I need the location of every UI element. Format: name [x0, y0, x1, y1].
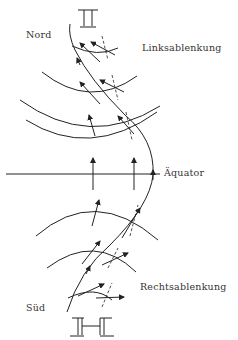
latitude-arc-1 — [72, 46, 118, 53]
deflection-arrow — [80, 82, 100, 104]
left-deflection-label: Linksablenkung — [142, 42, 222, 53]
latitude-arc-2 — [42, 72, 137, 92]
diagram-coriolis: Nord Linksablenkung Äquator Rechtsablenk… — [0, 0, 238, 340]
latitude-arc-6 — [47, 251, 136, 272]
deflection-arrow — [96, 297, 124, 298]
deflection-arrow — [78, 284, 104, 296]
deflection-arrow — [89, 115, 95, 136]
equator-label: Äquator — [164, 167, 204, 178]
north-label: Nord — [26, 29, 51, 40]
south-label: Süd — [26, 302, 45, 313]
latitude-arc-3 — [20, 100, 160, 127]
deflection-arrow — [82, 241, 100, 264]
deflection-arrow — [91, 42, 115, 55]
trajectory-curve — [67, 24, 153, 312]
south-pole-symbol — [70, 318, 114, 336]
deflection-arrow — [102, 253, 128, 265]
deflection-arrow — [92, 200, 99, 226]
right-deflection-label: Rechtsablenkung — [140, 281, 227, 292]
latitude-arc-5 — [36, 211, 158, 240]
north-pole-symbol — [78, 10, 98, 27]
